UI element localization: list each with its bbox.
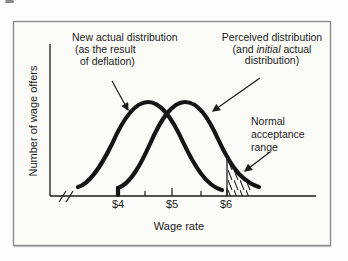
- y-axis-title: Number of wage offers: [27, 65, 41, 177]
- annotation-line: (as the result: [75, 43, 178, 55]
- x-axis-title: Wage rate: [154, 220, 204, 232]
- x-tick-label-4: $4: [112, 198, 124, 210]
- x-tick-label-6: $6: [220, 198, 232, 210]
- annotation-normal-acceptance-range: Normal acceptance range: [251, 115, 305, 154]
- annotation-line: distribution): [215, 55, 329, 67]
- annotation-line: range: [251, 141, 305, 154]
- annotation-line: Normal: [251, 115, 305, 128]
- annotation-line: acceptance: [251, 128, 305, 141]
- annotation-text: (and: [233, 43, 257, 55]
- annotation-text: actual: [280, 43, 311, 55]
- annotation-new-actual-distribution: New actual distribution (as the result o…: [72, 31, 178, 67]
- annotation-line: New actual distribution: [72, 31, 178, 43]
- x-tick-label-5: $5: [166, 198, 178, 210]
- annotation-line: of deflation): [80, 55, 178, 67]
- annotation-perceived-distribution: Perceived distribution (and initial actu…: [215, 32, 329, 67]
- figure-wage-distributions: New actual distribution (as the result o…: [0, 0, 348, 261]
- annotation-text-italic: initial: [257, 43, 281, 55]
